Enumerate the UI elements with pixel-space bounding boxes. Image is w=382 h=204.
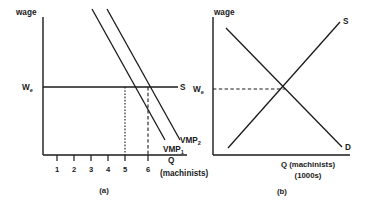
panel-a-vmp1-curve [92,9,165,140]
panel-b-caption: (b) [277,187,287,196]
two-panel-labor-market-diagram: wage We S VMP2 [0,0,382,204]
panel-b-y-axis-label: wage [213,8,235,17]
panel-b: wage We S D Q (machinists) (1000s) (b) [193,8,351,196]
panel-a-xtick-1: 1 [55,165,60,174]
panel-a-xtick-4: 4 [106,165,111,174]
panel-a: wage We S VMP2 [15,8,208,195]
panel-a-supply-label: S [180,83,186,92]
panel-a-wage-subscript: e [30,87,33,93]
panel-b-supply-curve [228,22,340,148]
panel-a-vmp2-label: VMP2 [180,136,201,146]
panel-a-x-axis-label: Q [168,156,175,165]
panel-b-x-axis-label: Q (machinists) [281,160,336,169]
panel-b-demand-curve [226,28,342,147]
panel-b-demand-label: D [345,143,351,152]
panel-a-xtick-3: 3 [89,165,93,174]
panel-a-equilibrium-wage-label: We [22,83,33,93]
panel-a-xtick-6: 6 [146,165,150,174]
panel-a-vmp1-label: VMP1 [163,145,184,155]
svg-text:We: We [22,83,33,93]
panel-b-equilibrium-wage-label: We [193,85,204,95]
panel-a-y-axis-label: wage [15,8,37,17]
panel-a-xtick-2: 2 [72,165,76,174]
economics-figure: wage We S VMP2 [0,0,382,204]
panel-b-supply-label: S [343,17,349,26]
panel-a-x-ticks [57,155,148,161]
panel-a-xtick-5: 5 [123,165,128,174]
panel-a-caption: (a) [99,186,109,195]
panel-a-vmp2-curve [107,9,180,140]
panel-b-wage-subscript: e [201,89,204,95]
panel-b-x-axis-label-line2: (1000s) [295,171,322,180]
panel-a-x-axis-label-line2: (machinists) [160,169,208,178]
